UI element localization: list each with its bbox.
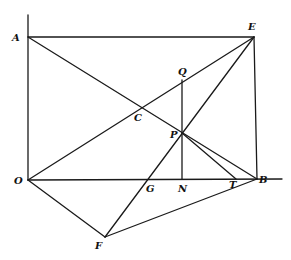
line-EB [254,37,257,179]
label-P: P [169,129,178,140]
label-E: E [247,21,256,32]
label-B: B [258,174,267,185]
geometry-figure: A E O B F C Q P N G T [0,0,291,260]
label-Q: Q [178,66,187,77]
label-N: N [177,183,188,194]
line-PT [182,133,236,179]
label-C: C [134,112,142,123]
label-F: F [94,240,103,251]
label-A: A [11,32,20,43]
label-T: T [229,179,238,190]
label-G: G [146,183,155,194]
label-O: O [14,175,23,186]
horizontal-axis [28,179,282,180]
line-OF [28,180,105,237]
